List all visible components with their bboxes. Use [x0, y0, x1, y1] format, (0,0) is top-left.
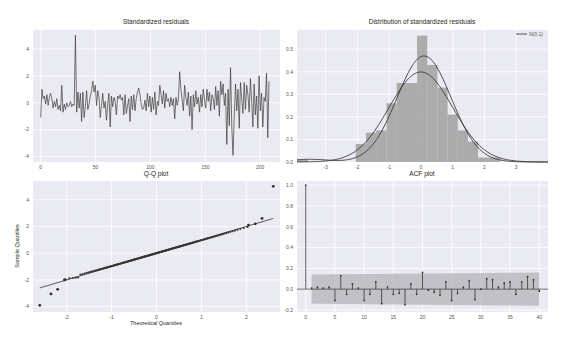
- axes-background: [33, 30, 280, 162]
- y-tick-label: 0.4: [286, 69, 293, 75]
- y-tick-label: -4: [25, 153, 30, 159]
- histogram-bar: [376, 130, 386, 162]
- histogram-bar: [448, 115, 458, 162]
- x-tick-label: 50: [93, 164, 99, 170]
- qq-ylabel: Sample Quantiles: [14, 224, 20, 268]
- x-tick-label: 35: [507, 314, 513, 320]
- y-tick-label: 0.2: [286, 265, 293, 271]
- acf-marker: [363, 300, 365, 302]
- acf-marker: [509, 281, 511, 283]
- acf-marker: [404, 304, 406, 306]
- acf-marker: [422, 272, 424, 274]
- acf-marker: [538, 290, 540, 292]
- x-tick-label: 1: [200, 314, 203, 320]
- x-tick-label: -3: [323, 164, 328, 170]
- y-tick-label: 4: [26, 46, 29, 52]
- acf-marker: [322, 287, 324, 289]
- y-tick-label: 0.6: [286, 224, 293, 230]
- y-tick-label: 4: [26, 197, 29, 203]
- acf-marker: [445, 281, 447, 283]
- x-tick-label: 25: [449, 314, 455, 320]
- acf-marker: [410, 283, 412, 285]
- y-tick-label: 0.1: [286, 136, 293, 142]
- x-tick-label: 3: [515, 164, 518, 170]
- y-tick-label: -2: [25, 126, 30, 132]
- acf-marker: [468, 280, 470, 282]
- y-tick-label: 0.4: [286, 244, 293, 250]
- acf-marker: [527, 276, 529, 278]
- x-tick-label: -1: [109, 314, 114, 320]
- x-tick-label: 2: [483, 164, 486, 170]
- acf-marker: [375, 281, 377, 283]
- y-tick-label: 0.0: [286, 159, 293, 165]
- acf-marker: [346, 293, 348, 295]
- acf-marker: [305, 184, 307, 186]
- acf-marker: [480, 288, 482, 290]
- distribution-plot: Distribution of standardized residuals N…: [286, 18, 548, 170]
- histogram-bar: [478, 157, 500, 162]
- acf-marker: [457, 292, 459, 294]
- acf-marker: [416, 293, 418, 295]
- x-tick-label: 40: [536, 314, 542, 320]
- acf-marker: [515, 293, 517, 295]
- acf-title: ACF plot: [409, 170, 434, 178]
- histogram-bar: [427, 65, 437, 162]
- acf-marker: [317, 286, 319, 288]
- histogram-bar: [458, 130, 468, 162]
- qq-title: Q-Q plot: [144, 170, 169, 178]
- x-tick-label: 0: [155, 314, 158, 320]
- acf-marker: [503, 282, 505, 284]
- acf-marker: [392, 293, 394, 295]
- acf-marker: [521, 281, 523, 283]
- y-tick-label: 2: [26, 223, 29, 229]
- x-tick-label: 2: [245, 314, 248, 320]
- acf-marker: [387, 286, 389, 288]
- acf-marker: [311, 287, 313, 289]
- histogram-bar: [468, 142, 478, 162]
- legend-label: N(0,1): [529, 31, 543, 37]
- acf-marker: [427, 289, 429, 291]
- histogram-bar: [387, 103, 397, 162]
- x-tick-label: 10: [361, 314, 367, 320]
- x-tick-label: 0: [304, 314, 307, 320]
- acf-marker: [462, 286, 464, 288]
- diagnostics-figure: Standardized residuals 050100150200-4-20…: [0, 0, 569, 345]
- distribution-title: Distribution of standardized residuals: [369, 18, 476, 25]
- x-tick-label: 1: [451, 164, 454, 170]
- x-tick-label: 0: [39, 164, 42, 170]
- acf-marker: [533, 279, 535, 281]
- histogram-bar: [407, 83, 417, 162]
- y-tick-label: 0: [26, 250, 29, 256]
- x-tick-label: 20: [420, 314, 426, 320]
- acf-marker: [334, 300, 336, 302]
- acf-marker: [492, 279, 494, 281]
- histogram-bar: [366, 133, 376, 162]
- acf-marker: [340, 275, 342, 277]
- acf-marker: [381, 303, 383, 305]
- y-tick-label: 0.0: [286, 286, 293, 292]
- qq-point: [56, 288, 59, 291]
- y-tick-label: -0.2: [284, 307, 293, 313]
- acf-marker: [433, 291, 435, 293]
- histogram-bar: [437, 88, 447, 162]
- y-tick-label: 0.8: [286, 203, 293, 209]
- x-tick-label: 5: [334, 314, 337, 320]
- figure-canvas: Standardized residuals 050100150200-4-20…: [0, 0, 569, 345]
- x-tick-label: 150: [201, 164, 210, 170]
- acf-marker: [497, 286, 499, 288]
- qq-point: [38, 304, 41, 307]
- acf-marker: [474, 299, 476, 301]
- qq-point: [272, 185, 275, 188]
- y-tick-label: 0.2: [286, 114, 293, 120]
- x-tick-label: -2: [355, 164, 360, 170]
- y-tick-label: 0.5: [286, 46, 293, 52]
- acf-plot: ACF plot 0510152025303540-0.20.00.20.40.…: [284, 170, 548, 320]
- acf-marker: [328, 286, 330, 288]
- qq-point: [261, 217, 264, 220]
- y-tick-label: -4: [25, 303, 30, 309]
- x-tick-label: 15: [391, 314, 397, 320]
- qq-xlabel: Theoretical Quantiles: [130, 320, 182, 326]
- acf-marker: [357, 287, 359, 289]
- histogram-bar: [417, 36, 427, 162]
- acf-marker: [486, 278, 488, 280]
